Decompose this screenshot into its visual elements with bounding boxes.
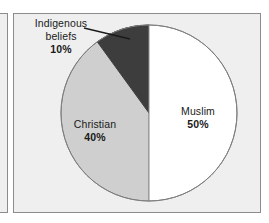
pie-label-christian: Christian 40%	[52, 118, 138, 144]
pie-label-muslim-name: Muslim	[162, 105, 234, 118]
pie-chart: Muslim 50% Christian 40% Indigenous beli…	[14, 14, 260, 212]
pie-label-indigenous-beliefs-name-line1: Indigenous	[20, 17, 102, 30]
pie-label-christian-name: Christian	[52, 118, 138, 131]
chart-panel: Muslim 50% Christian 40% Indigenous beli…	[13, 13, 261, 213]
pie-label-indigenous-beliefs: Indigenous beliefs 10%	[20, 17, 102, 55]
pie-label-christian-percent: 40%	[52, 131, 138, 144]
adjacent-panel-sliver	[0, 13, 8, 213]
pie-label-indigenous-beliefs-percent: 10%	[20, 43, 102, 56]
pie-label-indigenous-beliefs-name-line2: beliefs	[20, 30, 102, 43]
pie-label-muslim-percent: 50%	[162, 118, 234, 131]
pie-label-muslim: Muslim 50%	[162, 105, 234, 131]
